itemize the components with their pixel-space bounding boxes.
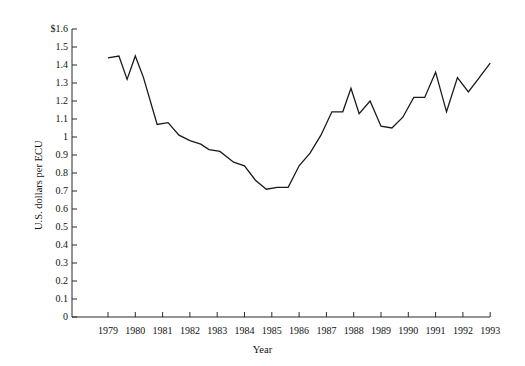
x-tick-label: 1993 xyxy=(470,326,510,336)
y-tick-label: 0.5 xyxy=(56,222,69,232)
y-axis-title: U.S. dollars per ECU xyxy=(33,140,44,230)
y-tick-label: 0 xyxy=(63,312,68,322)
y-tick-label: 0.6 xyxy=(56,204,69,214)
data-line-usd-per-ecu xyxy=(108,56,490,189)
y-tick-label: 0.4 xyxy=(56,240,69,250)
y-tick-label: 0.1 xyxy=(56,294,69,304)
y-tick-label: 0.8 xyxy=(56,168,69,178)
y-tick-marks xyxy=(72,29,77,317)
x-axis-title: Year xyxy=(0,344,525,355)
x-tick-marks xyxy=(108,312,490,317)
data-series-group xyxy=(108,56,490,189)
y-tick-label: 0.3 xyxy=(56,258,69,268)
chart-plot-area xyxy=(0,0,525,366)
y-tick-label: 1.4 xyxy=(56,60,69,70)
y-tick-label: 0.2 xyxy=(56,276,69,286)
chart-figure: 00.10.20.30.40.50.60.70.80.911.11.21.31.… xyxy=(0,0,525,366)
y-tick-label: 1.2 xyxy=(56,96,69,106)
y-tick-label: 0.7 xyxy=(56,186,69,196)
y-tick-label: 0.9 xyxy=(56,150,69,160)
y-tick-label: 1.5 xyxy=(56,42,69,52)
y-tick-label: 1 xyxy=(63,132,68,142)
y-tick-label: 1.1 xyxy=(56,114,69,124)
axis-lines xyxy=(72,29,490,317)
y-tick-label: 1.3 xyxy=(56,78,69,88)
y-tick-label: $1.6 xyxy=(51,24,69,34)
